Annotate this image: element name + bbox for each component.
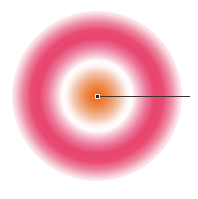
radius-ray-line [97,96,190,97]
figure-canvas [0,0,198,199]
origin-marker [95,94,100,99]
page-title [0,0,198,3]
